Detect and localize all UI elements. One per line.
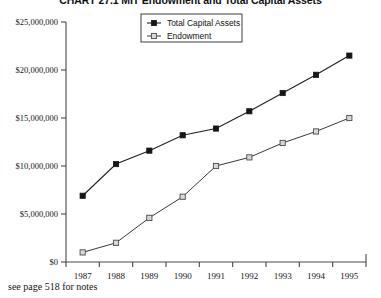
data-point-marker bbox=[280, 140, 285, 145]
data-point-marker bbox=[80, 250, 85, 255]
legend-label: Total Capital Assets bbox=[167, 18, 240, 28]
x-axis-tick-label: 1995 bbox=[340, 271, 359, 281]
axis-frame bbox=[66, 22, 366, 262]
chart-footnote: see page 518 for notes bbox=[8, 281, 97, 292]
data-point-marker bbox=[313, 72, 318, 77]
y-axis-tick-label: $20,000,000 bbox=[16, 65, 59, 75]
legend-marker-icon bbox=[151, 33, 156, 38]
data-point-marker bbox=[247, 155, 252, 160]
data-point-marker bbox=[213, 126, 218, 131]
chart-container: CHART 27.1 MIT Endowment and Total Capit… bbox=[0, 0, 381, 298]
data-point-marker bbox=[113, 161, 118, 166]
legend-label: Endowment bbox=[167, 31, 212, 41]
data-point-marker bbox=[313, 129, 318, 134]
x-axis-tick-label: 1989 bbox=[140, 271, 159, 281]
data-point-marker bbox=[213, 163, 218, 168]
data-point-marker bbox=[113, 240, 118, 245]
data-point-marker bbox=[347, 115, 352, 120]
y-axis-tick-label: $5,000,000 bbox=[20, 209, 58, 219]
data-point-marker bbox=[280, 90, 285, 95]
data-point-marker bbox=[180, 194, 185, 199]
y-axis-tick-label: $25,000,000 bbox=[16, 17, 59, 27]
data-point-marker bbox=[247, 109, 252, 114]
x-axis-tick-label: 1988 bbox=[107, 271, 126, 281]
data-point-marker bbox=[347, 53, 352, 58]
data-point-marker bbox=[147, 148, 152, 153]
y-axis-tick-label: $0 bbox=[50, 257, 59, 267]
x-axis-tick-label: 1987 bbox=[74, 271, 93, 281]
x-axis-tick-label: 1992 bbox=[240, 271, 258, 281]
x-axis-tick-label: 1993 bbox=[274, 271, 293, 281]
chart-plot-area: $0$5,000,000$10,000,000$15,000,000$20,00… bbox=[0, 0, 381, 298]
x-axis-tick-label: 1990 bbox=[174, 271, 193, 281]
series-line-endowment bbox=[83, 118, 350, 252]
data-point-marker bbox=[80, 193, 85, 198]
legend-marker-icon bbox=[151, 20, 156, 25]
y-axis-tick-label: $15,000,000 bbox=[16, 113, 59, 123]
x-axis-tick-label: 1991 bbox=[207, 271, 225, 281]
y-axis-tick-label: $10,000,000 bbox=[16, 161, 59, 171]
data-point-marker bbox=[180, 133, 185, 138]
x-axis-tick-label: 1994 bbox=[307, 271, 326, 281]
data-point-marker bbox=[147, 215, 152, 220]
